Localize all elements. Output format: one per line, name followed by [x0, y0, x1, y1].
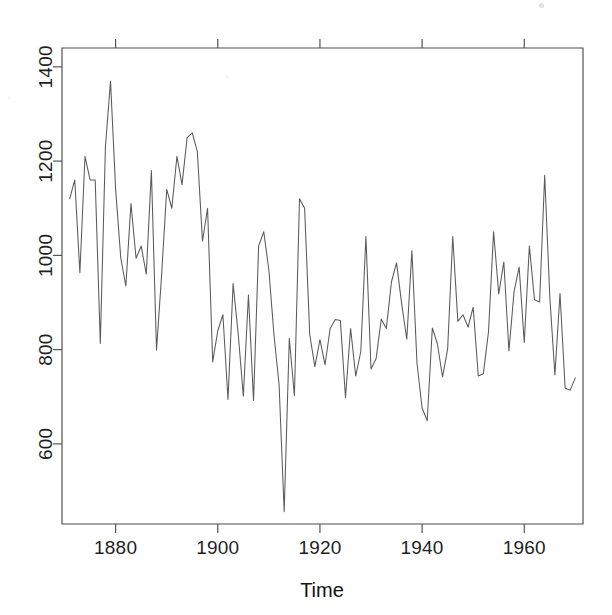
x-tick-label: 1880: [94, 537, 137, 558]
y-tick-label: 800: [36, 333, 57, 365]
y-tick-label: 1000: [36, 234, 57, 277]
y-tick-labels: 600800100012001400: [36, 45, 57, 460]
y-tick-label: 1200: [36, 140, 57, 183]
nile-series-line: [70, 81, 576, 512]
x-tick-label: 1960: [503, 537, 546, 558]
x-ticks-bottom: [116, 524, 525, 533]
x-axis-title: Time: [300, 579, 344, 601]
figure-canvas: 18801900192019401960 600800100012001400 …: [0, 0, 612, 615]
x-tick-label: 1920: [298, 537, 341, 558]
y-tick-label: 1400: [36, 45, 57, 88]
x-tick-labels: 18801900192019401960: [94, 537, 546, 558]
x-ticks-top: [116, 39, 525, 48]
x-tick-label: 1940: [401, 537, 444, 558]
y-tick-label: 600: [36, 428, 57, 460]
x-tick-label: 1900: [196, 537, 239, 558]
time-series-plot: 18801900192019401960 600800100012001400 …: [0, 0, 612, 615]
